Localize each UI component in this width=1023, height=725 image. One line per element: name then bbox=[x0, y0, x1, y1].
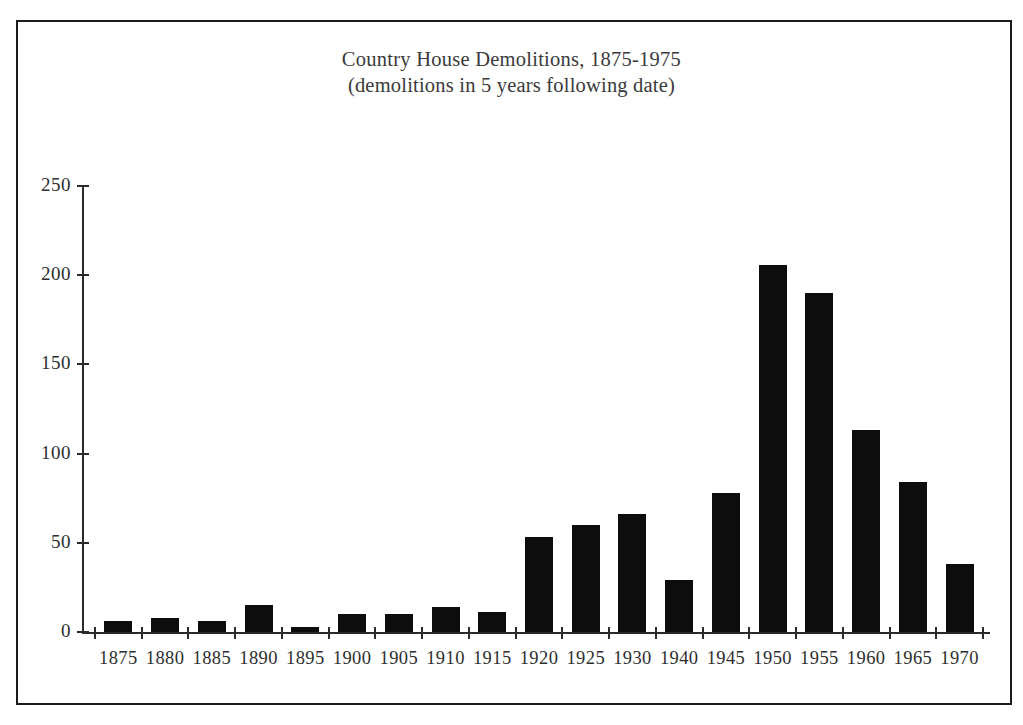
bar bbox=[104, 621, 132, 632]
x-tick-label: 1960 bbox=[847, 648, 886, 669]
x-tick-label: 1885 bbox=[193, 648, 232, 669]
x-tick-label: 1880 bbox=[146, 648, 185, 669]
bar bbox=[478, 612, 506, 632]
bar bbox=[665, 580, 693, 632]
x-tick-label: 1910 bbox=[426, 648, 465, 669]
y-tick-label: 50 bbox=[51, 531, 71, 553]
bar bbox=[572, 525, 600, 632]
bar bbox=[151, 618, 179, 632]
x-tick-label: 1875 bbox=[99, 648, 138, 669]
bar bbox=[899, 482, 927, 632]
bar bbox=[198, 621, 226, 632]
x-tick-label: 1905 bbox=[379, 648, 418, 669]
x-tick-label: 1940 bbox=[660, 648, 699, 669]
bar bbox=[245, 605, 273, 632]
chart-subtitle: (demolitions in 5 years following date) bbox=[0, 72, 1023, 98]
x-tick-label: 1900 bbox=[333, 648, 372, 669]
bar bbox=[759, 265, 787, 633]
x-tick-label: 1970 bbox=[940, 648, 979, 669]
x-tick-label: 1945 bbox=[707, 648, 746, 669]
bar bbox=[852, 430, 880, 632]
x-tick-label: 1895 bbox=[286, 648, 325, 669]
bar bbox=[805, 293, 833, 632]
x-tick-label: 1925 bbox=[566, 648, 605, 669]
chart-figure: Country House Demolitions, 1875-1975 (de… bbox=[0, 0, 1023, 725]
bar bbox=[946, 564, 974, 632]
x-tick-label: 1930 bbox=[613, 648, 652, 669]
x-tick-label: 1955 bbox=[800, 648, 839, 669]
x-tick-label: 1915 bbox=[473, 648, 512, 669]
bar bbox=[618, 514, 646, 632]
x-tick-label: 1890 bbox=[239, 648, 278, 669]
bar-series bbox=[82, 186, 990, 632]
x-tick-label: 1950 bbox=[753, 648, 792, 669]
y-tick-label: 200 bbox=[41, 263, 71, 285]
chart-title: Country House Demolitions, 1875-1975 bbox=[0, 46, 1023, 72]
chart-title-block: Country House Demolitions, 1875-1975 (de… bbox=[0, 46, 1023, 98]
plot-area: 050100150200250 187518801885189018951900… bbox=[82, 186, 990, 632]
bar bbox=[385, 614, 413, 632]
y-tick-label: 0 bbox=[61, 620, 71, 642]
y-tick-label: 250 bbox=[41, 174, 71, 196]
bar bbox=[338, 614, 366, 632]
bar bbox=[291, 627, 319, 632]
bar bbox=[432, 607, 460, 632]
bar bbox=[525, 537, 553, 632]
x-tick-label: 1965 bbox=[894, 648, 933, 669]
y-tick-label: 100 bbox=[41, 442, 71, 464]
y-tick-label: 150 bbox=[41, 352, 71, 374]
x-axis-line bbox=[82, 632, 990, 634]
bar bbox=[712, 493, 740, 632]
x-tick-label: 1920 bbox=[520, 648, 559, 669]
